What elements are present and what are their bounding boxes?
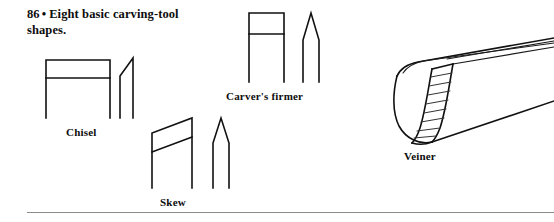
figure-caption: 86•Eight basic carving-tool shapes. xyxy=(27,6,187,38)
figure-label-carvers-firmer: Carver's firmer xyxy=(226,90,303,102)
page-footer-rule xyxy=(27,212,554,213)
figure-number: 86 xyxy=(27,7,40,21)
figure-label-veiner: Veiner xyxy=(404,150,436,162)
carvers-firmer-figure xyxy=(249,13,319,82)
veiner-bevel-hatch-6 xyxy=(421,118,444,122)
veiner-figure xyxy=(394,38,554,144)
veiner-bevel-hatch-5 xyxy=(424,109,446,113)
veiner-bevel-hatch-3 xyxy=(428,91,450,95)
skew-figure xyxy=(152,118,229,188)
veiner-bevel-band-inner xyxy=(412,69,432,143)
veiner-bevel-band-outer xyxy=(432,64,453,142)
veiner-bevel-band-bottom xyxy=(412,142,432,144)
figure-page: 86•Eight basic carving-tool shapes. xyxy=(0,0,554,222)
caption-bullet: • xyxy=(40,6,49,22)
veiner-inner-top-edge xyxy=(403,43,554,73)
veiner-body-upper-edge xyxy=(453,47,554,64)
veiner-bevel-band-top xyxy=(432,64,453,69)
skew-front-outline xyxy=(152,118,192,188)
caption-line-1: Eight basic xyxy=(49,7,110,21)
veiner-body-lower-edge xyxy=(432,101,554,142)
carvers-firmer-side-profile xyxy=(303,13,319,82)
skew-front-bevel-line xyxy=(152,137,192,152)
veiner-bevel-hatch-8 xyxy=(414,136,436,138)
veiner-bevel-hatch-4 xyxy=(426,100,448,104)
figure-label-chisel: Chisel xyxy=(66,126,97,138)
chisel-front-outline xyxy=(46,60,110,118)
skew-side-profile xyxy=(213,118,229,188)
veiner-bevel-hatch-7 xyxy=(417,128,440,131)
veiner-bevel-hatch-1 xyxy=(431,73,452,77)
veiner-outer-top-left-lip xyxy=(397,38,554,76)
veiner-bevel-hatch-2 xyxy=(429,82,451,86)
veiner-rim-edge xyxy=(447,41,554,59)
carvers-firmer-front-outline xyxy=(249,13,284,82)
figure-label-skew: Skew xyxy=(160,196,186,208)
veiner-outer-u-edge xyxy=(394,76,432,143)
chisel-figure xyxy=(46,58,133,118)
chisel-side-profile xyxy=(120,58,133,118)
